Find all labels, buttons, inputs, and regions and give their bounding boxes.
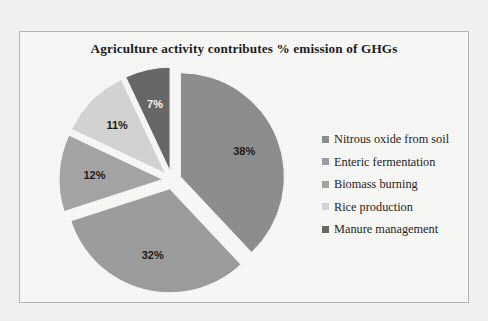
legend-item[interactable]: Biomass burning xyxy=(322,173,472,196)
pie-chart: 38%32%12%11%7% xyxy=(48,62,298,294)
legend-item[interactable]: Enteric fermentation xyxy=(322,151,472,174)
legend-item[interactable]: Rice production xyxy=(322,196,472,219)
legend-item-label: Biomass burning xyxy=(334,178,418,190)
legend-swatch-icon xyxy=(322,136,329,143)
pie-slice-label: 32% xyxy=(142,249,164,261)
legend-swatch-icon xyxy=(322,226,329,233)
pie-slice-label: 38% xyxy=(233,145,255,157)
legend-item-label: Manure management xyxy=(334,223,438,235)
legend-item-label: Enteric fermentation xyxy=(334,156,435,168)
pie-slice-label: 11% xyxy=(106,119,128,131)
legend-swatch-icon xyxy=(322,181,329,188)
chart-legend: Nitrous oxide from soilEnteric fermentat… xyxy=(322,128,472,241)
legend-item[interactable]: Manure management xyxy=(322,218,472,241)
legend-swatch-icon xyxy=(322,203,329,210)
legend-swatch-icon xyxy=(322,158,329,165)
page-background: Agriculture activity contributes % emiss… xyxy=(0,0,488,321)
pie-slice-label: 7% xyxy=(147,98,163,110)
legend-item-label: Rice production xyxy=(334,201,413,213)
pie-chart-svg: 38%32%12%11%7% xyxy=(48,62,298,294)
pie-slice-label: 12% xyxy=(83,169,105,181)
chart-title: Agriculture activity contributes % emiss… xyxy=(19,41,469,57)
legend-item[interactable]: Nitrous oxide from soil xyxy=(322,128,472,151)
legend-item-label: Nitrous oxide from soil xyxy=(334,133,449,145)
